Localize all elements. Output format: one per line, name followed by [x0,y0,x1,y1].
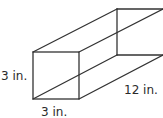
length-label: 12 in. [124,84,158,96]
top-right-edge [79,9,163,52]
prism-diagram [0,0,163,118]
bottom-left-edge [33,55,117,99]
front-face [33,52,79,99]
height-label: 3 in. [1,70,27,82]
width-label: 3 in. [41,106,67,118]
top-left-edge [33,9,117,52]
